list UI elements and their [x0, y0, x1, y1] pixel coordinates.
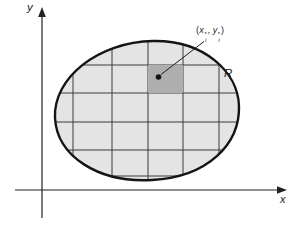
point-y-var: y [213, 25, 218, 35]
region-R-label: R [224, 67, 232, 79]
y-axis-arrow-icon [38, 7, 46, 17]
point-y-index: i [218, 38, 220, 44]
figure-canvas [0, 0, 302, 227]
point-x-var: x [199, 25, 204, 35]
sample-point-dot [156, 74, 162, 80]
double-integral-region-figure: y x R (x*i,y*i) [0, 0, 302, 227]
sample-point-label: (x*i,y*i) [196, 25, 224, 43]
point-comma: , [207, 25, 210, 35]
point-close-paren: ) [221, 25, 224, 35]
highlighted-cell [148, 65, 183, 93]
y-axis [38, 7, 46, 218]
point-x-index: i [205, 38, 207, 44]
x-axis [15, 186, 287, 194]
y-axis-label: y [27, 1, 33, 13]
x-axis-label: x [280, 193, 286, 205]
